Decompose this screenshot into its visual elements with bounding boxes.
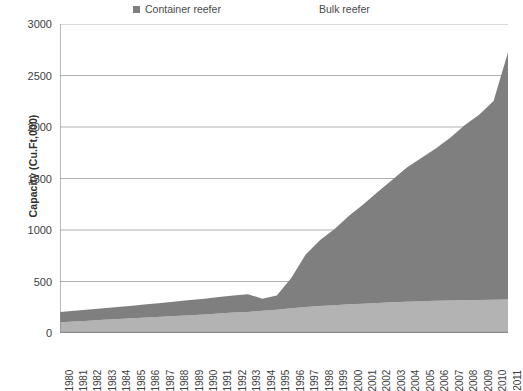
- legend-item-container-reefer[interactable]: Container reefer: [133, 4, 221, 15]
- legend-item-bulk-reefer[interactable]: Bulk reefer: [307, 4, 370, 15]
- x-axis-tick-label: 1992: [238, 370, 248, 391]
- x-axis-tick-label: 2002: [382, 370, 392, 391]
- x-axis-tick-label: 1998: [325, 370, 335, 391]
- x-axis-tick-label: 1997: [310, 370, 320, 391]
- x-axis-tick-label: 1991: [223, 370, 233, 391]
- y-axis-tick-label: 1500: [28, 173, 52, 184]
- x-axis-tick-label: 1996: [296, 370, 306, 391]
- legend-swatch-bulk-reefer-icon: [307, 6, 314, 13]
- y-axis-tick-label: 500: [34, 276, 52, 287]
- y-axis-tick-label: 2000: [28, 122, 52, 133]
- x-axis-tick-label: 1999: [339, 370, 349, 391]
- x-axis-tick-label: 1995: [281, 370, 291, 391]
- legend-label-bulk-reefer: Bulk reefer: [319, 4, 370, 15]
- x-axis-tick-label: 1993: [252, 370, 262, 391]
- x-axis-tick-label: 2008: [469, 370, 479, 391]
- x-axis-tick-label: 1989: [195, 370, 205, 391]
- x-axis-tick-label: 2001: [368, 370, 378, 391]
- x-axis-tick-label: 2000: [354, 370, 364, 391]
- x-axis-tick-label: 1990: [209, 370, 219, 391]
- y-axis-tick-label: 0: [46, 328, 52, 339]
- plot-area: [60, 24, 508, 333]
- y-axis-tick-label: 1000: [28, 225, 52, 236]
- x-axis-tick-label: 2004: [411, 370, 421, 391]
- x-axis-tick-label: 2011: [513, 370, 523, 391]
- y-axis-tick-labels: 050010001500200025003000: [0, 0, 57, 373]
- plot-svg: [60, 24, 508, 333]
- x-axis-tick-label: 1982: [93, 370, 103, 391]
- x-axis-tick-label: 2009: [484, 370, 494, 391]
- x-axis-tick-label: 1984: [122, 370, 132, 391]
- x-axis-tick-label: 2007: [455, 370, 465, 391]
- x-axis-tick-label: 1981: [79, 370, 89, 391]
- x-axis-tick-label: 1983: [108, 370, 118, 391]
- x-axis-tick-label: 2005: [426, 370, 436, 391]
- y-axis-tick-label: 3000: [28, 19, 52, 30]
- x-axis-tick-label: 2003: [397, 370, 407, 391]
- chart-legend: Container reefer Bulk reefer: [0, 0, 514, 20]
- x-axis-tick-label: 1980: [65, 370, 75, 391]
- y-axis-tick-label: 2500: [28, 70, 52, 81]
- x-axis-tick-label: 1987: [166, 370, 176, 391]
- x-axis-tick-labels: 1980198119821983198419851986198719881989…: [60, 337, 508, 373]
- x-axis-tick-label: 1988: [180, 370, 190, 391]
- legend-label-container-reefer: Container reefer: [145, 4, 221, 15]
- x-axis-tick-label: 2006: [440, 370, 450, 391]
- x-axis-tick-label: 1994: [267, 370, 277, 391]
- x-axis-tick-label: 1985: [137, 370, 147, 391]
- legend-swatch-container-reefer-icon: [133, 6, 140, 13]
- x-axis-tick-label: 2010: [498, 370, 508, 391]
- x-axis-tick-label: 1986: [151, 370, 161, 391]
